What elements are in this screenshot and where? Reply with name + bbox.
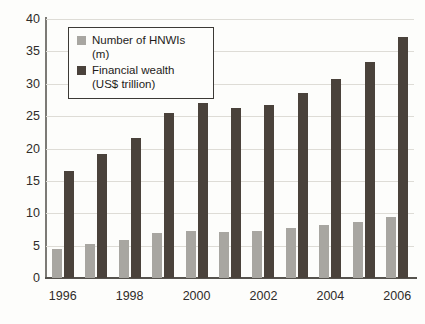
x-tick-label: 2002 xyxy=(239,290,287,303)
legend-label-wealth: Financial wealth xyxy=(92,64,174,78)
legend-swatch-wealth xyxy=(77,66,86,75)
x-tick-label: 1998 xyxy=(106,290,154,303)
chart-legend: Number of HNWIs (m) Financial wealth (US… xyxy=(68,27,214,99)
legend-swatch-hnwis xyxy=(77,36,86,45)
legend-item-wealth: Financial wealth (US$ trillion) xyxy=(77,64,205,91)
legend-label-wealth-units: (US$ trillion) xyxy=(92,78,174,92)
legend-label-hnwis: Number of HNWIs (m) xyxy=(92,34,205,61)
x-tick-label: 2000 xyxy=(173,290,221,303)
x-tick-label: 1996 xyxy=(39,290,87,303)
x-tick-label: 2004 xyxy=(306,290,354,303)
legend-item-hnwis: Number of HNWIs (m) xyxy=(77,34,205,61)
x-tick-label: 2006 xyxy=(373,290,421,303)
bar-chart: 0510152025303540 19961998200020022004200… xyxy=(0,0,425,324)
